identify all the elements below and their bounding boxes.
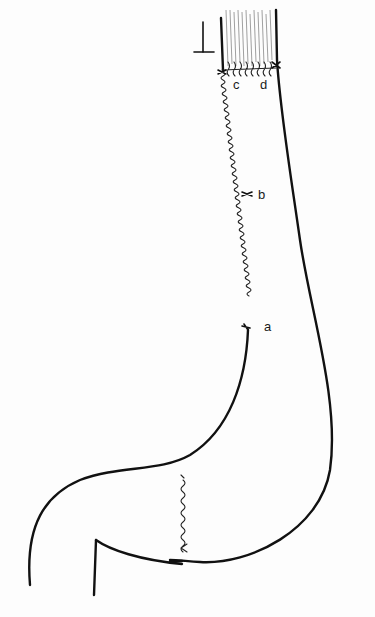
esophagus-left-wall: [221, 18, 223, 70]
pylorus-tip: [170, 561, 182, 562]
suture-line-antrum: [181, 475, 187, 552]
t-marker-icon: [194, 22, 214, 52]
diagram-canvas: c d b a: [0, 0, 375, 617]
duodenum-inner-wall: [94, 540, 96, 595]
lesser-curvature: [29, 330, 248, 585]
stay-suture-marks: [218, 62, 280, 330]
esophagus-hatching: [226, 10, 272, 66]
suture-line-main: [221, 72, 251, 296]
stomach-diagram: [0, 0, 375, 617]
greater-curvature: [170, 10, 332, 562]
label-b: b: [258, 188, 265, 201]
label-d: d: [260, 78, 267, 91]
label-a: a: [264, 320, 271, 333]
label-c: c: [233, 78, 240, 91]
suture-line-transverse: [222, 62, 276, 76]
